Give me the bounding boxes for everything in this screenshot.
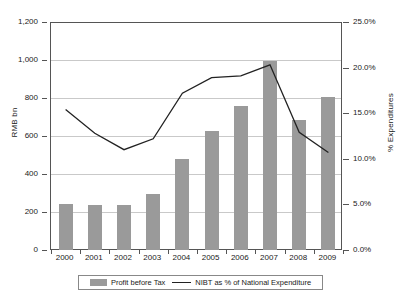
y-axis-right-tick-label: 0.0% (353, 245, 387, 254)
y-axis-left-tick-label: 200 (4, 207, 38, 216)
y-axis-left-tick-label: 1,000 (4, 55, 38, 64)
line-series-nibt-percent (51, 22, 343, 250)
y-axis-right-tickmark (343, 204, 349, 205)
y-axis-left-tick-label: 400 (4, 169, 38, 178)
legend-item-profit-before-tax: Profit before Tax (90, 278, 165, 287)
x-axis-label: 2009 (310, 253, 344, 262)
y-axis-left-tick-label: 1,200 (4, 17, 38, 26)
plot-area (50, 22, 342, 250)
y-axis-right-tick-label: 5.0% (353, 199, 387, 208)
y-axis-left-tickmark (42, 174, 47, 175)
y-axis-right-tick-label: 20.0% (353, 63, 387, 72)
y-axis-right-tickmark (343, 113, 349, 114)
y-axis-right-tickmark (343, 68, 349, 69)
y-axis-right-tick-label: 10.0% (353, 154, 387, 163)
legend-line-swatch-icon (172, 282, 191, 283)
y-axis-right-tick-label: 15.0% (353, 108, 387, 117)
y-axis-right-tickmark (343, 22, 349, 23)
legend-item-nibt-percent: NIBT as % of National Expenditure (172, 278, 311, 287)
y-axis-left-tickmark (42, 250, 47, 251)
y-axis-left-tick-label: 0 (4, 245, 38, 254)
chart-legend: Profit before Tax NIBT as % of National … (78, 275, 323, 290)
y-axis-left-tickmark (42, 22, 47, 23)
legend-label-nibt-percent: NIBT as % of National Expenditure (195, 278, 311, 287)
legend-bar-swatch-icon (90, 279, 107, 286)
y-axis-right-title: % Expenditures (386, 88, 395, 158)
y-axis-left-ticks: 02004006008001,0001,200 (4, 0, 38, 295)
y-axis-left-tick-label: 800 (4, 93, 38, 102)
line-path (66, 65, 329, 153)
y-axis-left-tickmark (42, 60, 47, 61)
y-axis-right-tick-label: 25.0% (353, 17, 387, 26)
y-axis-left-tickmark (42, 98, 47, 99)
y-axis-left-tickmark (42, 136, 47, 137)
y-axis-left-tickmark (42, 212, 47, 213)
x-axis-labels: 2000200120022003200420052006200720082009 (50, 253, 342, 267)
chart-container: RMB bn % Expenditures 02004006008001,000… (0, 0, 397, 295)
y-axis-right-tickmark (343, 159, 349, 160)
y-axis-left-tick-label: 600 (4, 131, 38, 140)
y-axis-right-ticks: 0.0%5.0%10.0%15.0%20.0%25.0% (345, 0, 379, 295)
legend-label-profit-before-tax: Profit before Tax (111, 278, 165, 287)
